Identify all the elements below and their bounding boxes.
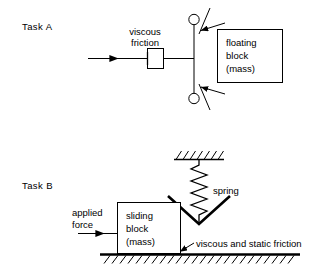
friction-pointer-arrow — [180, 243, 194, 252]
spring-label: spring — [213, 185, 239, 196]
applied-force-label-line2: force — [72, 219, 93, 230]
task-a-group: Task A viscous friction — [22, 8, 283, 110]
viscous-friction-label-line2: friction — [131, 37, 159, 48]
ceiling-hatching — [174, 151, 224, 160]
upper-roller-circle — [189, 14, 199, 24]
floating-block-label-line3: (mass) — [226, 63, 255, 74]
ceiling-hatch-marks — [176, 151, 224, 160]
lower-roller-pointer-arrow — [201, 87, 225, 94]
spring-coil — [191, 160, 207, 223]
sliding-block-label-line2: block — [126, 223, 148, 234]
task-b-group: Task B spring — [22, 151, 302, 264]
sliding-block-label-line1: sliding — [126, 210, 153, 221]
lower-roller-circle — [189, 93, 199, 103]
ground-hatch-marks — [104, 256, 294, 264]
sliding-block-box: sliding block (mass) — [118, 203, 181, 254]
floating-block-label-line1: floating — [226, 37, 257, 48]
diagram-canvas: Task A viscous friction — [0, 0, 318, 273]
floating-block-label-line2: block — [226, 50, 248, 61]
viscous-friction-label-line1: viscous — [129, 26, 161, 37]
viscous-friction-dashpot — [134, 49, 194, 69]
friction-label: viscous and static friction — [196, 238, 302, 249]
applied-force-label-line1: applied — [72, 207, 103, 218]
sliding-block-label-line3: (mass) — [126, 236, 155, 247]
task-b-label: Task B — [22, 180, 53, 191]
upper-roller-guide-line — [199, 8, 210, 34]
ground-hatching — [100, 255, 300, 264]
task-a-label: Task A — [22, 21, 53, 32]
mechanical-system-diagram: Task A viscous friction — [0, 0, 318, 273]
floating-block-box: floating block (mass) — [218, 30, 283, 83]
